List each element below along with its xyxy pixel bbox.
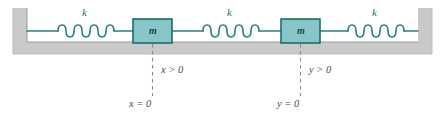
mass-right-label: m [297,26,305,36]
spring-left-coils [58,25,114,37]
y-positive-label: y > 0 [309,65,331,76]
spring-left-label: k [82,7,87,18]
x-positive-label: x > 0 [161,65,183,76]
support-structure [13,8,432,54]
mass-left-label: m [149,26,157,36]
x-zero-label: x = 0 [129,99,151,110]
spring-middle [172,25,281,37]
figure-canvas: k k k m m x > 0 y > 0 x = 0 y = 0 [0,0,445,120]
spring-right-coils [348,25,404,37]
spring-middle-coils [203,25,259,37]
spring-right [320,25,418,37]
spring-middle-label: k [227,7,232,18]
spring-right-label: k [372,7,377,18]
spring-left [27,25,133,37]
y-zero-label: y = 0 [277,99,299,110]
mass-spring-diagram [0,0,445,120]
floor [13,42,432,54]
spring-system [27,25,418,37]
